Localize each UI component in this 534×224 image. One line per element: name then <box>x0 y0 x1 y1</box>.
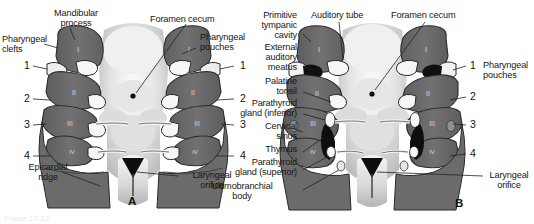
arch-numeral-III: III <box>67 120 73 127</box>
label-foramen-cecum-b: Foramen cecum <box>391 10 455 20</box>
number-4-left-a: 4 <box>24 150 30 161</box>
svg-text:III: III <box>310 120 316 127</box>
label-auditory-tube: Auditory tube <box>311 10 363 20</box>
svg-text:III: III <box>429 120 435 127</box>
label-laryngeal-orifice-b: Laryngeal orifice <box>484 170 534 190</box>
svg-text:III: III <box>194 120 200 127</box>
label-parathyroid-gland-superior: Parathyroid gland (superior) <box>187 157 297 177</box>
label-primitive-tympanic-cavity: Primitive tympanic cavity <box>209 10 297 41</box>
panel-letter-b: B <box>455 197 463 209</box>
panel-letter-a: A <box>128 195 136 207</box>
svg-text:I: I <box>425 45 427 54</box>
arch-numeral-II: II <box>72 89 76 96</box>
svg-text:II: II <box>191 89 195 96</box>
figure-caption-faint: Figure 17-12 <box>4 214 49 223</box>
label-foramen-cecum-a: Foramen cecum <box>150 14 214 24</box>
foramen-cecum-dot <box>130 93 135 98</box>
number-1-left-a: 1 <box>24 60 30 71</box>
svg-text:II: II <box>315 90 319 97</box>
svg-text:IV: IV <box>429 149 435 155</box>
number-3-right-b: 3 <box>470 119 476 130</box>
svg-text:IV: IV <box>192 149 198 155</box>
leader-num-2-left <box>33 99 50 100</box>
label-ultimobranchial-body: Ultimobranchial body <box>187 181 297 201</box>
number-2-right-b: 2 <box>470 91 476 102</box>
label-pharyngeal-clefts-a: Pharyngeal clefts <box>2 34 74 54</box>
auditory-tube-shape <box>327 60 349 75</box>
label-external-auditory-meatus: External auditory meatus <box>209 42 297 73</box>
arch-numeral-IV: IV <box>69 149 75 155</box>
parathyroid-superior-shape <box>327 146 336 157</box>
arch-numeral-I: I <box>77 45 79 54</box>
leader-num-1-left <box>33 66 47 69</box>
label-palatine-tonsil: Palatine tonsil <box>209 76 297 96</box>
number-1-right-b: 1 <box>470 60 476 71</box>
label-thymus: Thymus <box>209 144 297 154</box>
foramen-cecum-dot-b <box>369 91 374 96</box>
label-mandibular-process-a: Mandibular process <box>36 8 116 28</box>
svg-text:II: II <box>426 90 430 97</box>
label-pharyngeal-pouches-b: Pharyngeal pouches <box>483 60 534 80</box>
label-parathyroid-gland-inferior: Parathyroid gland (inferior) <box>195 98 297 118</box>
svg-text:I: I <box>188 45 190 54</box>
ultimobranchial-body-shape <box>337 161 345 171</box>
panel-b: I II III IV <box>267 0 534 224</box>
svg-text:IV: IV <box>310 149 316 155</box>
figure-root: I II III IV <box>0 0 534 224</box>
label-cervical-sinus: Cervical sinus <box>209 121 297 141</box>
number-2-left-a: 2 <box>24 93 30 104</box>
number-4-right-b: 4 <box>470 148 476 159</box>
label-epicardial-ridge-a: Epicardial ridge <box>17 162 79 182</box>
number-3-left-a: 3 <box>24 119 30 130</box>
palatine-tonsil-shape <box>329 94 347 109</box>
svg-text:I: I <box>318 45 320 54</box>
